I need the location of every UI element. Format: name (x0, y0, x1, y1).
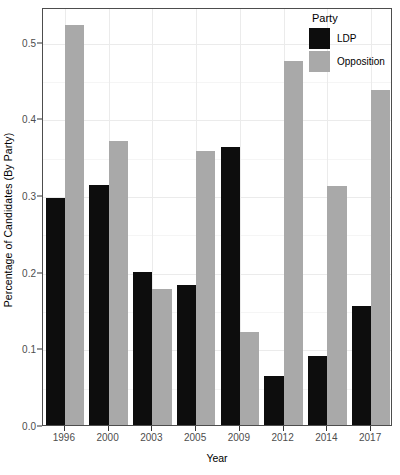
legend: Party LDPOpposition (309, 12, 393, 74)
bar-opposition-2000 (109, 141, 128, 425)
y-axis-title: Percentage of Candidates (By Party) (0, 0, 16, 440)
x-tick-label-2012: 2012 (272, 432, 294, 443)
x-tick-mark (370, 426, 371, 431)
bar-ldp-2014 (308, 356, 327, 425)
y-axis-tick-group: 0.00.10.20.30.40.5 (16, 0, 42, 475)
x-tick-label-2017: 2017 (359, 432, 381, 443)
y-tick-label: 0.5 (22, 37, 36, 48)
bar-ldp-2017 (352, 306, 371, 425)
bar-opposition-2003 (152, 289, 171, 425)
y-tick-label: 0.0 (22, 421, 36, 432)
bar-opposition-1996 (65, 25, 84, 425)
bar-opposition-2017 (371, 90, 390, 425)
x-tick-label-2003: 2003 (140, 432, 162, 443)
bar-opposition-2009 (240, 332, 259, 425)
y-tick-label: 0.2 (22, 267, 36, 278)
x-axis-label-group: 19962000200320052009201220142017 (42, 432, 392, 448)
y-tick-label: 0.3 (22, 190, 36, 201)
bar-ldp-2012 (264, 376, 283, 425)
legend-swatch-opposition (309, 51, 330, 72)
bar-opposition-2005 (196, 151, 215, 425)
x-tick-mark (239, 426, 240, 431)
x-tick-mark (195, 426, 196, 431)
legend-label-ldp: LDP (337, 33, 356, 44)
bar-opposition-2014 (327, 186, 346, 425)
x-tick-mark (326, 426, 327, 431)
y-tick-label: 0.1 (22, 344, 36, 355)
bar-ldp-2009 (221, 147, 240, 425)
legend-items: LDPOpposition (309, 28, 393, 72)
legend-item-ldp: LDP (309, 28, 393, 49)
bar-ldp-2003 (133, 272, 152, 425)
x-tick-mark (151, 426, 152, 431)
legend-title: Party (312, 12, 393, 24)
x-tick-mark (64, 426, 65, 431)
x-axis-title: Year (42, 452, 392, 464)
bar-ldp-2000 (89, 185, 108, 425)
bar-ldp-2005 (177, 285, 196, 425)
legend-label-opposition: Opposition (337, 56, 385, 67)
x-tick-mark (283, 426, 284, 431)
x-tick-label-1996: 1996 (53, 432, 75, 443)
y-axis-title-label: Percentage of Candidates (By Party) (2, 133, 14, 308)
bar-opposition-2012 (284, 61, 303, 425)
x-tick-label-2014: 2014 (315, 432, 337, 443)
legend-swatch-ldp (309, 28, 330, 49)
x-tick-label-2009: 2009 (228, 432, 250, 443)
bar-chart: Percentage of Candidates (By Party) 0.00… (0, 0, 400, 475)
x-tick-label-2000: 2000 (97, 432, 119, 443)
y-tick-label: 0.4 (22, 114, 36, 125)
x-tick-mark (108, 426, 109, 431)
bar-ldp-1996 (46, 198, 65, 425)
legend-item-opposition: Opposition (309, 51, 393, 72)
x-tick-label-2005: 2005 (184, 432, 206, 443)
